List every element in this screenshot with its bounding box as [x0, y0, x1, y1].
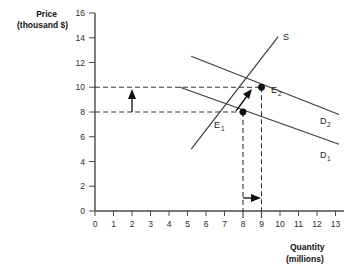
y-tick-label-16: 16 — [76, 8, 86, 18]
x-tick-label-5: 5 — [185, 219, 190, 229]
y-tick-label-10: 10 — [76, 82, 86, 92]
supply-curve-s — [191, 37, 278, 150]
x-tick-label-11: 11 — [294, 219, 303, 229]
chart-svg: Price (thousand $) 16 14 12 10 8 6 4 2 0 — [0, 0, 351, 276]
equilibrium-point-e2 — [258, 84, 265, 91]
x-tick-label-4: 4 — [167, 219, 172, 229]
equilibrium-shift-arrow — [236, 89, 252, 111]
y-tick-label-12: 12 — [76, 58, 86, 68]
x-tick-label-9: 9 — [259, 219, 264, 229]
x-tick-label-0: 0 — [93, 219, 98, 229]
y-axis-title-line2: (thousand $) — [17, 20, 68, 30]
demand-curve-d1-label-subscript: 1 — [327, 155, 331, 162]
x-tick-label-2: 2 — [130, 219, 135, 229]
demand-curve-d2 — [191, 56, 339, 114]
x-tick-label-1: 1 — [111, 219, 116, 229]
equilibrium-label-e1: E — [214, 120, 220, 130]
equilibrium-label-e1-subscript: 1 — [221, 125, 225, 132]
y-tick-label-2: 2 — [80, 181, 85, 191]
demand-curve-d1-label: D — [320, 150, 327, 160]
x-axis-title-line2: (millions) — [286, 254, 324, 264]
x-tick-label-6: 6 — [204, 219, 209, 229]
equilibrium-point-e1 — [240, 109, 247, 116]
x-tick-label-8: 8 — [241, 219, 246, 229]
x-tick-label-10: 10 — [275, 219, 285, 229]
x-axis-ticks — [95, 211, 336, 218]
demand-curve-d2-label: D — [320, 116, 327, 126]
supply-curve-label: S — [283, 32, 289, 42]
x-tick-label-7: 7 — [222, 219, 227, 229]
price-increase-arrow — [128, 89, 136, 112]
x-axis-title-line1: Quantity — [290, 242, 325, 252]
quantity-increase-arrow — [243, 194, 261, 202]
demand-curve-d1 — [180, 87, 339, 144]
y-tick-label-0: 0 — [80, 206, 85, 216]
y-tick-label-8: 8 — [80, 107, 85, 117]
y-tick-label-6: 6 — [80, 132, 85, 142]
demand-curve-d2-label-subscript: 2 — [327, 121, 331, 128]
equilibrium-label-e2: E — [271, 85, 277, 95]
y-axis-title-line1: Price — [36, 9, 57, 19]
x-tick-label-13: 13 — [331, 219, 341, 229]
y-tick-label-14: 14 — [76, 33, 86, 43]
x-tick-label-3: 3 — [148, 219, 153, 229]
x-tick-label-12: 12 — [312, 219, 322, 229]
supply-demand-chart: Price (thousand $) 16 14 12 10 8 6 4 2 0 — [0, 0, 351, 276]
y-tick-label-4: 4 — [80, 157, 85, 167]
equilibrium-label-e2-subscript: 2 — [278, 90, 282, 97]
y-axis-ticks — [89, 13, 95, 211]
